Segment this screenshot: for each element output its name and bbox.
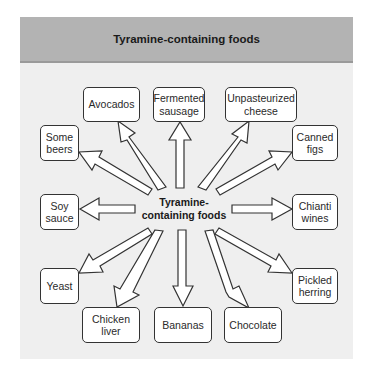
arrow-pickled-herring — [215, 228, 292, 273]
food-box-chianti-wines: Chianti wines — [292, 194, 338, 230]
arrow-chianti-wines — [232, 198, 292, 220]
center-label: Tyramine- containing foods — [134, 196, 234, 221]
arrow-soy-sauce — [80, 198, 135, 220]
food-box-bananas: Bananas — [154, 307, 212, 343]
food-box-pickled-herring: Pickled herring — [292, 268, 338, 304]
food-box-unpasteurized-cheese: Unpasteurized cheese — [225, 87, 297, 122]
arrow-fermented-sausage — [169, 122, 191, 188]
food-box-some-beers: Some beers — [40, 125, 79, 161]
food-box-canned-figs: Canned figs — [292, 125, 338, 161]
food-box-fermented-sausage: Fermented sausage — [153, 87, 205, 122]
arrow-bananas — [173, 230, 193, 306]
food-box-avocados: Avocados — [83, 87, 140, 122]
food-box-chicken-liver: Chicken liver — [82, 307, 140, 343]
food-box-chocolate: Chocolate — [224, 307, 282, 343]
food-box-soy-sauce: Soy sauce — [40, 194, 79, 230]
food-box-yeast: Yeast — [40, 268, 79, 304]
